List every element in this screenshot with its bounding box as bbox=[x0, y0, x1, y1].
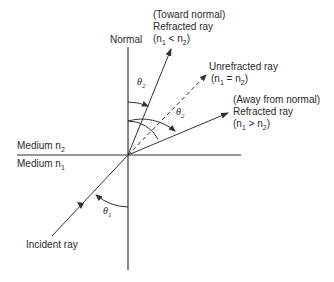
theta2-top-arc bbox=[128, 102, 148, 106]
medium-n2-label: Medium n2 bbox=[17, 140, 65, 153]
away-normal-title: (Away from normal) bbox=[233, 94, 320, 105]
theta2-right-arc bbox=[128, 121, 158, 139]
toward-normal-title: (Toward normal) bbox=[153, 9, 225, 20]
away-refracted-label: Refracted ray bbox=[233, 106, 293, 117]
unrefracted-condition: (n1 = n2) bbox=[211, 73, 248, 86]
theta2-right-label: θ2 bbox=[176, 106, 185, 120]
normal-label: Normal bbox=[110, 34, 142, 45]
toward-condition: (n1 < n2) bbox=[153, 33, 190, 46]
refraction-diagram: Normal Medium n2 Medium n1 Incident ray … bbox=[0, 0, 334, 282]
unrefracted-ray bbox=[128, 75, 206, 155]
unrefracted-label: Unrefracted ray bbox=[209, 61, 278, 72]
medium-n1-label: Medium n1 bbox=[17, 158, 65, 171]
theta2-top-label: θ2 bbox=[137, 76, 146, 90]
theta1-arc bbox=[96, 195, 128, 207]
theta2-right-arc-ext bbox=[128, 119, 175, 131]
theta1-label: θ1 bbox=[103, 205, 111, 219]
away-condition: (n1 > n2) bbox=[233, 118, 270, 131]
incident-ray-label: Incident ray bbox=[26, 239, 78, 250]
toward-refracted-label: Refracted ray bbox=[153, 21, 213, 32]
